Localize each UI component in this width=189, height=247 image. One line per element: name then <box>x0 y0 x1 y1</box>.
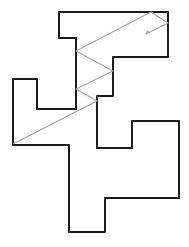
diagram-canvas <box>0 0 189 247</box>
room-outline-polygon <box>13 12 179 232</box>
